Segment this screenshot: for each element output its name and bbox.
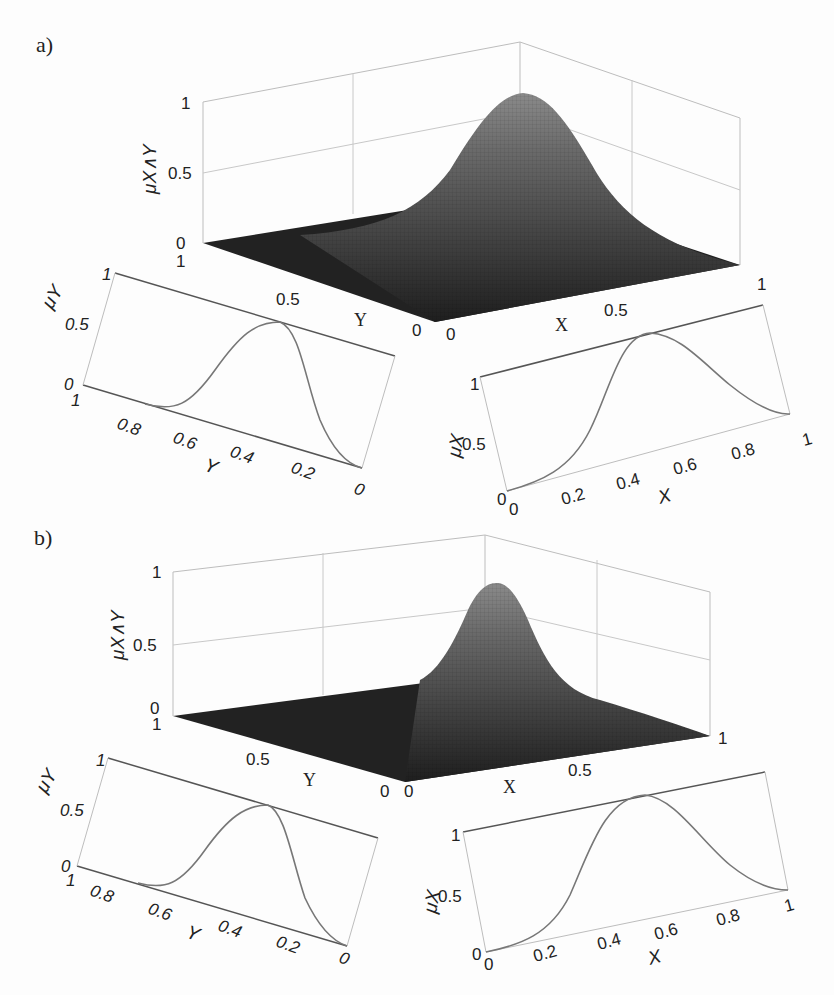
muY-xtick-08: 0.8 [115, 414, 144, 440]
muY-ytick-1: 1 [96, 751, 105, 770]
muY-xtick-06: 0.6 [171, 428, 200, 454]
muX-xtick-0: 0 [484, 955, 493, 974]
y-tick-0: 0 [412, 321, 421, 340]
muX-ytick-0: 0 [497, 490, 506, 509]
muY-xlabel: Y [184, 921, 204, 946]
y-axis-label: Y [354, 310, 367, 330]
muY-ylabel: μY [31, 764, 62, 797]
muY-xtick-08: 0.8 [88, 881, 117, 907]
muX-ytick-1: 1 [470, 375, 479, 394]
panel-a-surface-plot: 1 0.5 0 μX∧Y 1 0.5 0 Y 0 0.5 1 X [139, 42, 766, 344]
muX-xtick-08: 0.8 [714, 905, 742, 929]
muX-xtick-04: 0.4 [595, 929, 623, 953]
muY-xtick-1: 1 [66, 871, 75, 890]
muY-xtick-06: 0.6 [146, 899, 175, 925]
muX-xtick-08: 0.8 [729, 439, 757, 463]
panel-a-muX-plot: 1 0.5 0 μX 0 0.2 0.4 0.6 0.8 1 X [443, 305, 814, 519]
muY-ytick-05: 0.5 [60, 801, 84, 820]
z-tick-05: 0.5 [133, 636, 157, 655]
muX-xtick-1: 1 [800, 429, 814, 450]
muY-xlabel: Y [202, 454, 222, 479]
x-axis-label: X [555, 315, 568, 335]
muY-xtick-04: 0.4 [216, 916, 245, 942]
x-tick-05: 0.5 [604, 301, 628, 320]
panel-b-muX-plot: 1 0.5 0 μX 0 0.2 0.4 0.6 0.8 1 X [419, 772, 796, 974]
y-tick-05: 0.5 [276, 290, 300, 309]
muY-xtick-02: 0.2 [274, 932, 303, 958]
z-tick-05: 0.5 [168, 164, 192, 183]
figure-canvas: 1 0.5 0 μX∧Y 1 0.5 0 Y 0 0.5 1 X 1 0.5 0… [0, 0, 834, 995]
y-tick-1: 1 [176, 252, 185, 271]
x-tick-0: 0 [446, 325, 455, 344]
muX-xtick-02: 0.2 [559, 484, 587, 508]
y-tick-0: 0 [380, 782, 389, 801]
muY-xtick-0: 0 [352, 479, 368, 500]
z-axis-label: μX∧Y [139, 143, 160, 195]
muX-ytick-1: 1 [451, 826, 460, 845]
muX-xtick-1: 1 [782, 895, 796, 916]
muX-xtick-06: 0.6 [652, 919, 680, 943]
muX-xtick-06: 0.6 [671, 454, 699, 478]
y-axis-label: Y [303, 770, 316, 790]
muY-xtick-02: 0.2 [289, 458, 318, 484]
x-tick-1: 1 [757, 275, 766, 294]
x-tick-1: 1 [718, 729, 727, 748]
panel-a-muY-plot: 1 0.5 0 μY 1 0.8 0.6 0.4 0.2 0 Y [37, 265, 395, 500]
z-axis-label: μX∧Y [107, 609, 128, 661]
muY-ytick-05: 0.5 [65, 315, 89, 334]
muX-xlabel: X [655, 484, 675, 508]
x-tick-05: 0.5 [568, 761, 592, 780]
muY-xtick-1: 1 [71, 391, 80, 410]
muX-xtick-04: 0.4 [614, 469, 642, 493]
panel-b-muY-plot: 1 0.5 0 μY 1 0.8 0.6 0.4 0.2 0 Y [31, 751, 378, 969]
muY-ylabel: μY [37, 280, 68, 313]
x-tick-0: 0 [404, 782, 413, 801]
muY-ytick-1: 1 [102, 265, 111, 284]
z-tick-0: 0 [176, 234, 185, 253]
muX-ytick-0: 0 [472, 945, 481, 964]
panel-b-surface-plot: 1 0.5 0 μX∧Y 1 0.5 0 Y 0 0.5 1 X [107, 535, 727, 801]
muX-xtick-0: 0 [509, 500, 518, 519]
y-tick-1: 1 [152, 715, 161, 734]
muX-xlabel: X [645, 945, 665, 969]
y-tick-05: 0.5 [246, 750, 270, 769]
z-tick-1: 1 [152, 563, 161, 582]
muX-xtick-02: 0.2 [531, 941, 559, 965]
x-axis-label: X [503, 777, 516, 797]
muY-xtick-04: 0.4 [228, 442, 257, 468]
muY-xtick-0: 0 [337, 948, 353, 969]
z-tick-1: 1 [181, 94, 190, 113]
